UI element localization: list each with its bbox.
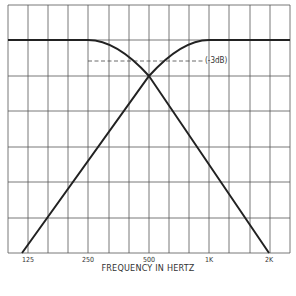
minus-3db-label: (-3dB) [205,56,227,65]
grid [8,5,290,253]
x-axis-label: FREQUENCY IN HERTZ [0,263,296,273]
crossover-chart [0,0,296,296]
high-pass-curve [8,40,269,253]
